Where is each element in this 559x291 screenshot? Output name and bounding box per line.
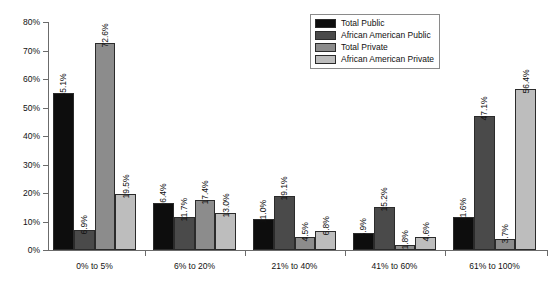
bar-value-label: 16.4% [159,184,168,208]
y-axis-tick [43,250,48,251]
y-axis-tick [43,108,48,109]
y-axis-tick [43,79,48,80]
bar-value-label: 19.1% [280,176,289,200]
bar-value-label: 4.6% [421,222,430,241]
y-axis-label: 10% [23,217,40,226]
x-axis-tick [245,251,246,256]
legend-item-label: African American Private [341,55,434,64]
y-axis-label: 80% [23,18,40,27]
x-axis-label: 6% to 20% [174,262,215,271]
x-axis-tick [345,251,346,256]
bar-value-label: 72.6% [100,23,109,47]
legend-item: Total Public [315,18,435,29]
bar-value-label: 11.6% [459,198,468,221]
x-axis-tick [445,251,446,256]
legend-swatch-icon [315,55,336,64]
x-axis-label: 61% to 100% [469,262,520,271]
y-axis-tick [43,51,48,52]
bar-value-label: 6.9% [80,215,89,234]
bar-value-label: 11.0% [259,200,268,223]
y-axis-tick [43,193,48,194]
bar-value-label: 1.8% [400,230,409,249]
y-axis-label: 60% [23,75,40,84]
bar-value-label: 11.7% [180,198,189,221]
legend-item-label: Total Private [341,43,388,52]
bar-value-label: 19.5% [121,175,130,199]
bar-value-label: 3.7% [500,225,509,244]
y-axis-line [48,22,49,251]
x-axis-tick [547,251,548,256]
x-axis-tick [145,251,146,256]
bar-value-label: 17.4% [200,181,209,205]
y-axis-tick [43,222,48,223]
y-axis-tick [43,22,48,23]
bar [195,200,216,250]
legend-item: Total Private [315,42,435,53]
bar-value-label: 5.9% [359,218,368,237]
legend-swatch-icon [315,43,336,52]
bar-value-label: 13.0% [221,193,230,217]
bar [53,93,74,250]
bar [515,89,536,250]
legend-swatch-icon [315,31,336,40]
bar-value-label: 6.8% [321,216,330,235]
bar-value-label: 55.1% [59,73,68,97]
y-axis-label: 30% [23,160,40,169]
bar-value-label: 56.4% [521,70,530,94]
bar-chart: 55.1%6.9%72.6%19.5%16.4%11.7%17.4%13.0%1… [0,0,559,291]
y-axis-label: 20% [23,189,40,198]
bar [174,217,195,250]
bar [95,43,116,250]
bar [474,116,495,250]
bar [453,217,474,250]
legend-swatch-icon [315,19,336,28]
y-axis-label: 50% [23,103,40,112]
bar [153,203,174,250]
x-axis-line [48,250,548,251]
legend: Total PublicAfrican American PublicTotal… [310,14,440,69]
legend-item: African American Public [315,30,435,41]
bar-value-label: 15.2% [380,187,389,211]
bar-value-label: 47.1% [480,96,489,120]
legend-item-label: African American Public [341,31,431,40]
x-axis-label: 21% to 40% [272,262,318,271]
y-axis-label: 0% [28,246,40,255]
y-axis-label: 40% [23,132,40,141]
bar-value-label: 4.5% [300,222,309,241]
y-axis-tick [43,165,48,166]
legend-item: African American Private [315,54,435,65]
x-axis-label: 41% to 60% [372,262,418,271]
legend-item-label: Total Public [341,19,384,28]
bar [215,213,236,250]
bar [115,194,136,250]
y-axis-tick [43,136,48,137]
x-axis-label: 0% to 5% [76,262,112,271]
bar [274,196,295,250]
bar [374,207,395,250]
y-axis-label: 70% [23,46,40,55]
